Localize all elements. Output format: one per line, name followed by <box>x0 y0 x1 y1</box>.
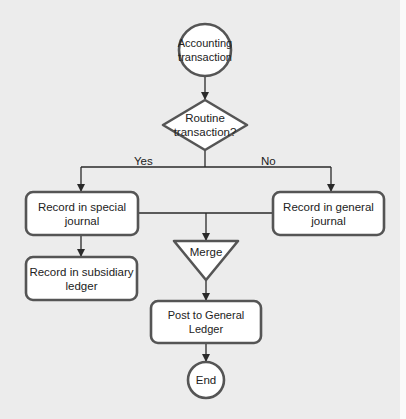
no-edge-label: No <box>261 155 276 167</box>
end-node: End <box>188 372 224 388</box>
start-label-line-1: Accounting <box>178 36 232 50</box>
subsidiary-ledger-node: Record in subsidiary ledger <box>26 257 137 300</box>
special-journal-node: Record in special journal <box>26 192 138 235</box>
decision-node: Routine transaction? <box>160 110 250 140</box>
subsidiary-ledger-label-line-1: Record in subsidiary <box>29 265 133 279</box>
start-node: Accounting transaction <box>175 34 235 66</box>
general-journal-node: Record in general journal <box>273 192 384 235</box>
general-journal-label-line-1: Record in general <box>283 200 374 214</box>
post-label: Post to General Ledger <box>151 308 261 336</box>
decision-label-line-1: Routine <box>185 111 225 125</box>
decision-label-line-2: transaction? <box>174 125 237 139</box>
general-journal-label-line-2: journal <box>311 214 346 228</box>
start-label-line-2: transaction <box>178 50 232 64</box>
subsidiary-ledger-label-line-2: ledger <box>66 279 98 293</box>
end-label: End <box>196 373 216 387</box>
yes-edge-label: Yes <box>134 155 153 167</box>
merge-node: Merge <box>176 243 236 261</box>
special-journal-label-line-1: Record in special <box>38 200 126 214</box>
special-journal-label-line-2: journal <box>65 214 100 228</box>
merge-label: Merge <box>190 245 223 259</box>
post-node: Post to General Ledger <box>151 301 261 343</box>
